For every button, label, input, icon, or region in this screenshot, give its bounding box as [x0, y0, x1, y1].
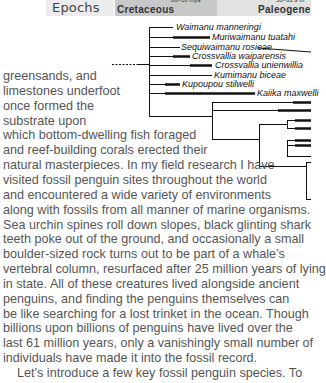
species-label: Waimanu manneringi	[176, 23, 261, 32]
species-label: Crossvallia unienwillia	[215, 61, 303, 70]
species-label: Kupoupou stilwelli	[182, 80, 254, 89]
species-label: Muriwaimanu tuatahi	[212, 33, 295, 42]
species-label: Kaiika maxwelli	[257, 89, 319, 98]
text-line: Let’s introduce a few key fossil penguin…	[17, 365, 302, 383]
